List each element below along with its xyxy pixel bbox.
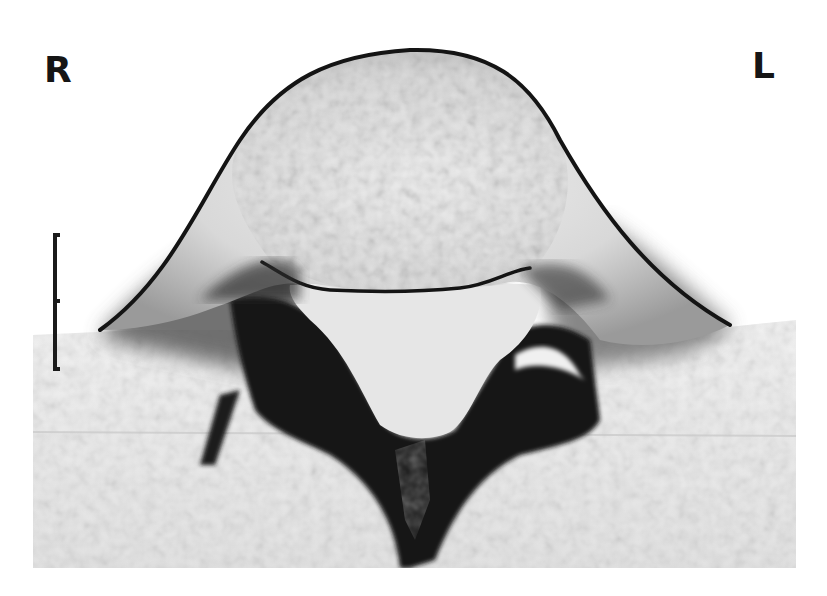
scale-bar-tick-top — [53, 233, 60, 237]
orientation-label-left: L — [752, 48, 775, 84]
scale-bar-tick-bottom — [53, 367, 60, 371]
scale-bar-tick-mid — [53, 299, 60, 303]
cross-section-image — [0, 0, 827, 596]
orientation-label-right: R — [44, 52, 72, 88]
micrograph-figure: R L — [0, 0, 827, 596]
